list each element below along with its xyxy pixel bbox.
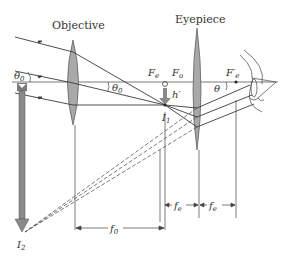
- h-prime-label: h′: [172, 89, 181, 100]
- theta0-left-label: θ0: [14, 70, 25, 83]
- focal-point-fe-prime: [235, 81, 238, 84]
- objective-label: Objective: [52, 19, 105, 32]
- fe-label: Fe: [147, 67, 159, 80]
- i2-label: I2: [16, 239, 26, 252]
- virtual-image-rays: [25, 108, 197, 232]
- i1-label: I1: [161, 112, 170, 125]
- eyepiece-label: Eyepiece: [175, 13, 226, 26]
- f0-label: f0: [109, 223, 119, 236]
- theta-label: θ: [214, 83, 220, 94]
- fe-dim-label-2: fe: [208, 200, 217, 213]
- fo-label: Fo: [171, 67, 183, 80]
- refracting-telescope-diagram: Objective Eyepiece θ0 θ0 θ Fe Fo F′e h′ …: [0, 0, 287, 258]
- object-arrow: [17, 83, 27, 91]
- virtual-image-i2: [15, 91, 29, 232]
- incoming-rays: [15, 37, 165, 105]
- theta0-arc-mid: [108, 82, 109, 91]
- theta-arc: [226, 82, 227, 90]
- fe-prime-label: F′e: [225, 67, 239, 80]
- eyepiece-lens: [193, 28, 201, 150]
- fe-dim-label-1: fe: [173, 200, 182, 213]
- eye-icon: [240, 50, 276, 112]
